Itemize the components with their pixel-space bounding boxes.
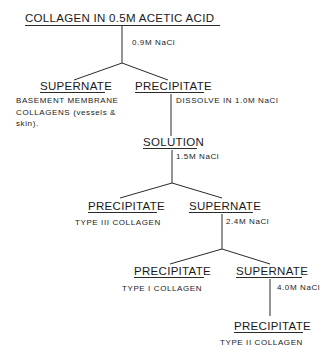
precipitate-label: PRECIPITATE bbox=[134, 265, 211, 277]
connector bbox=[170, 249, 222, 264]
connector bbox=[172, 183, 222, 198]
description: TYPE III COLLAGEN bbox=[75, 218, 161, 227]
description: TYPE I COLLAGEN bbox=[122, 284, 202, 293]
supernate-label: SUPERNATE bbox=[236, 265, 308, 277]
supernate-label: SUPERNATE bbox=[189, 200, 261, 212]
connector bbox=[222, 249, 270, 264]
reagent-label: 2.4M NaCl bbox=[226, 217, 269, 226]
supernate-label: SUPERNATE bbox=[40, 80, 112, 92]
note: DISSOLVE IN 1.0M NaCl bbox=[176, 96, 278, 105]
reagent-label: 1.5M NaCl bbox=[176, 152, 219, 161]
reagent-label: 0.9M NaCl bbox=[132, 38, 175, 47]
solution-label: SOLUTION bbox=[143, 136, 204, 148]
precipitate-label: PRECIPITATE bbox=[88, 200, 165, 212]
description: skin). bbox=[16, 119, 39, 128]
reagent-label: 4.0M NaCl bbox=[277, 283, 320, 292]
precipitate-label: PRECIPITATE bbox=[234, 320, 311, 332]
connector bbox=[74, 63, 122, 80]
description: COLLAGENS (vessels & bbox=[16, 108, 116, 117]
precipitate-label: PRECIPITATE bbox=[135, 80, 212, 92]
description: BASEMENT MEMBRANE bbox=[16, 96, 119, 105]
connector bbox=[120, 183, 172, 198]
collagen-fractionation-diagram: COLLAGEN IN 0.5M ACETIC ACID 0.9M NaCl S… bbox=[0, 0, 336, 355]
title: COLLAGEN IN 0.5M ACETIC ACID bbox=[25, 12, 214, 24]
description: TYPE II COLLAGEN bbox=[220, 338, 303, 347]
connector bbox=[122, 63, 168, 80]
